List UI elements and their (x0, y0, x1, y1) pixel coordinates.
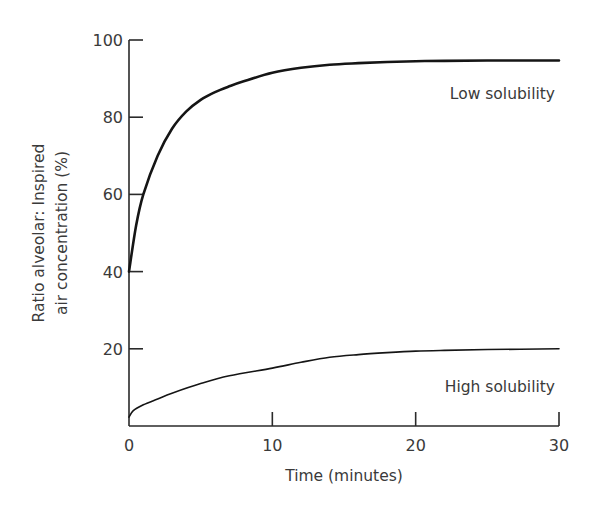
series-label-low-solubility: Low solubility (450, 85, 555, 103)
x-tick-label: 10 (262, 436, 282, 455)
x-tick-label: 0 (124, 436, 134, 455)
data-series (129, 60, 559, 417)
x-axis-title: Time (minutes) (284, 467, 403, 485)
y-axis-title-line-1: Ratio alveolar: Inspired (30, 144, 48, 323)
y-tick-label: 80 (103, 108, 123, 127)
y-tick-label: 60 (103, 185, 123, 204)
y-axis-title-line-2: air concentration (%) (53, 151, 71, 315)
chart-canvas: 204060801000102030 Low solubilityHigh so… (0, 0, 598, 514)
x-tick-label: 30 (549, 436, 569, 455)
y-tick-label: 100 (92, 31, 123, 50)
x-tick-label: 20 (405, 436, 425, 455)
y-tick-label: 40 (103, 263, 123, 282)
y-axis-title: Ratio alveolar: Inspired air concentrati… (30, 144, 71, 323)
series-label-high-solubility: High solubility (445, 378, 555, 396)
y-tick-label: 20 (103, 340, 123, 359)
